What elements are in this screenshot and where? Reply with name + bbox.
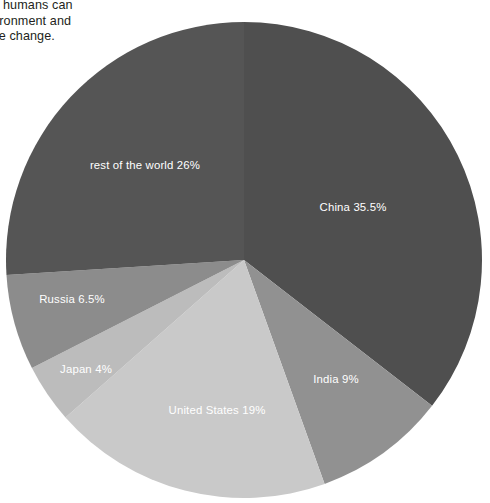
pie-chart: China 35.5%India 9%United States 19%Japa… [0,0,490,503]
pie-label-china: China 35.5% [320,201,387,213]
screenshot-canvas: f things humans can he environment and f… [0,0,490,503]
pie-label-rest-of-the-world: rest of the world 26% [90,159,200,171]
pie-label-united-states: United States 19% [169,404,266,416]
pie-slice-group [6,22,482,498]
pie-label-india: India 9% [313,373,359,385]
pie-label-russia: Russia 6.5% [39,293,105,305]
pie-chart-svg: China 35.5%India 9%United States 19%Japa… [0,0,490,503]
pie-slice-rest-of-the-world[interactable] [6,22,244,275]
pie-label-japan: Japan 4% [60,363,112,375]
